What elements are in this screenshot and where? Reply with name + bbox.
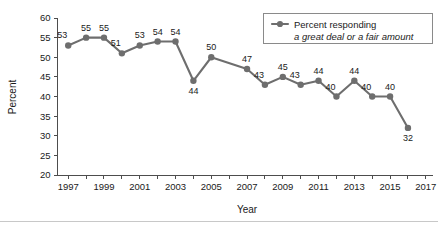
x-tick-label: 2005 <box>201 181 222 192</box>
data-point-label: 40 <box>385 82 395 92</box>
data-point-marker <box>190 78 196 84</box>
x-tick-label: 1997 <box>58 181 79 192</box>
legend-label-line2: a great deal or a fair amount <box>294 31 414 42</box>
data-point-label: 32 <box>403 133 413 143</box>
data-point-label: 44 <box>188 86 198 96</box>
y-tick-label: 45 <box>40 71 51 82</box>
series-line <box>68 38 408 128</box>
data-point-marker <box>137 42 143 48</box>
data-point-label: 44 <box>349 66 359 76</box>
data-point-label: 55 <box>81 23 91 33</box>
x-tick-label: 2001 <box>129 181 150 192</box>
x-tick-label: 2003 <box>165 181 186 192</box>
data-point-marker <box>83 34 89 40</box>
data-point-marker <box>280 74 286 80</box>
y-axis-title: Percent <box>7 80 18 115</box>
data-point-label: 45 <box>278 62 288 72</box>
x-tick-label: 2007 <box>236 181 257 192</box>
data-point-marker <box>208 54 214 60</box>
y-tick-label: 60 <box>40 12 51 23</box>
x-tick-label: 2009 <box>272 181 293 192</box>
data-point-marker <box>369 93 375 99</box>
data-point-marker <box>405 125 411 131</box>
data-point-label: 53 <box>135 30 145 40</box>
y-tick-label: 40 <box>40 91 51 102</box>
data-point-label: 54 <box>153 27 163 37</box>
data-point-label: 44 <box>314 66 324 76</box>
data-point-label: 51 <box>111 38 121 48</box>
data-point-marker <box>154 38 160 44</box>
data-point-label: 40 <box>361 82 371 92</box>
x-tick-label: 2013 <box>344 181 365 192</box>
data-point-label: 47 <box>242 54 252 64</box>
x-axis-title-label: Year <box>237 204 258 215</box>
data-point-marker <box>244 66 250 72</box>
data-point-label: 54 <box>171 27 181 37</box>
x-tick-label: 1999 <box>93 181 114 192</box>
data-point-label: 40 <box>325 82 335 92</box>
y-axis-title-label: Percent <box>7 80 18 115</box>
data-point-marker <box>387 93 393 99</box>
data-point-marker <box>333 93 339 99</box>
y-tick-label: 25 <box>40 150 51 161</box>
data-point-marker <box>297 82 303 88</box>
data-point-marker <box>315 78 321 84</box>
legend-label-line1: Percent responding <box>294 19 376 30</box>
y-tick-label: 35 <box>40 111 51 122</box>
data-point-marker <box>172 38 178 44</box>
y-tick-label: 55 <box>40 32 51 43</box>
legend[interactable]: Percent responding a great deal or a fai… <box>264 14 433 44</box>
data-point-marker <box>119 50 125 56</box>
data-point-marker <box>101 34 107 40</box>
y-tick-label: 30 <box>40 130 51 141</box>
y-tick-label: 20 <box>40 169 51 180</box>
x-tick-label: 2011 <box>308 181 328 192</box>
data-point-label: 50 <box>206 42 216 52</box>
line-chart: 2025303540455055601997199920012003200520… <box>0 0 438 225</box>
y-tick-label: 50 <box>40 52 51 63</box>
data-point-label: 53 <box>57 30 67 40</box>
data-point-marker <box>351 78 357 84</box>
legend-marker-icon <box>277 21 283 27</box>
data-point-marker <box>65 42 71 48</box>
data-point-label: 43 <box>290 70 300 80</box>
x-tick-label: 2015 <box>380 181 401 192</box>
data-point-label: 43 <box>254 70 264 80</box>
series-group <box>65 34 411 131</box>
chart-canvas: 2025303540455055601997199920012003200520… <box>0 0 438 225</box>
data-point-marker <box>262 82 268 88</box>
x-tick-label: 2017 <box>415 181 436 192</box>
data-point-label: 55 <box>99 23 109 33</box>
